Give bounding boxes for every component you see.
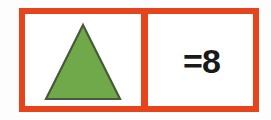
triangle-shape [44,22,122,102]
figure-canvas: =8 [0,0,271,120]
green-triangle-icon [44,22,122,102]
legend-key-frame: =8 [19,8,259,112]
key-value-label: =8 [183,44,220,78]
cell-divider [141,14,148,106]
symbol-cell [25,14,141,106]
value-cell: =8 [148,14,253,106]
